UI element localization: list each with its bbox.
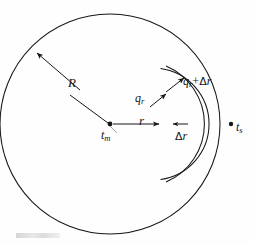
label-shell-thickness: Δr [175, 130, 187, 142]
center-label-leader [110, 126, 117, 133]
label-center-temperature-subscript: m [104, 133, 110, 143]
label-heat-flux-out-delta: Δ [199, 75, 207, 88]
label-heat-flux-out-variable: r [207, 74, 212, 88]
label-shell-radius: r [139, 114, 144, 127]
label-shell-radius-text: r [139, 113, 144, 128]
cropped-caption-remnant [16, 233, 60, 238]
radius-R-line [70, 95, 108, 123]
label-outer-radius-text: R [68, 75, 76, 90]
label-heat-flux-in-subscript: r [141, 96, 144, 106]
heat-conduction-sphere-figure: R tm r qr qr+Δr Δr ts [0, 0, 254, 244]
label-surface-temperature-subscript: s [239, 125, 242, 135]
heat-flux-out-arrow [166, 78, 184, 92]
surface-point-marker [229, 122, 233, 126]
label-shell-thickness-delta: Δ [175, 130, 183, 143]
center-point-marker [108, 122, 113, 127]
label-heat-flux-in: qr [135, 92, 144, 106]
label-heat-flux-out: qr+Δr [183, 75, 211, 89]
label-surface-temperature: ts [236, 121, 243, 135]
label-outer-radius: R [68, 76, 76, 89]
heat-flux-in-arrow [150, 94, 166, 107]
label-center-temperature: tm [101, 129, 111, 143]
figure-canvas [0, 0, 254, 244]
label-shell-thickness-variable: r [183, 129, 188, 143]
